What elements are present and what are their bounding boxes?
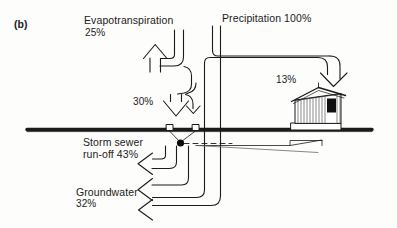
water-table-wedge [196,140,322,153]
water-balance-diagram: (b) Evapotranspiration 25% Precipitation… [0,0,397,228]
infiltration-arrow-left [164,67,192,117]
evapotranspiration-arrow [144,30,184,72]
infiltration-arrow-right [186,83,201,114]
label-infiltration-percent: 30% [133,96,153,109]
storm-drain-inlet-right [193,125,200,131]
label-groundwater: Groundwater [76,186,138,199]
sewer-junction-dot [177,139,184,146]
label-roof-runoff-percent: 13% [276,74,296,87]
storm-sewer-pipe [138,146,177,175]
label-storm-sewer-line2: run-off 43% [83,148,138,161]
panel-label: (b) [14,18,28,31]
label-precipitation: Precipitation 100% [222,12,311,25]
label-evapotranspiration: Evapotranspiration [84,14,173,27]
label-groundwater-percent: 32% [76,198,96,211]
barn-house-icon [291,83,346,130]
label-storm-sewer-line1: Storm sewer [83,136,143,149]
storm-drain-inlet-left [167,125,174,131]
sewer-connector-lines [170,131,196,142]
label-evapotranspiration-percent: 25% [85,27,105,40]
diagram-canvas [0,0,397,228]
roof-runoff-arrow [318,56,347,87]
